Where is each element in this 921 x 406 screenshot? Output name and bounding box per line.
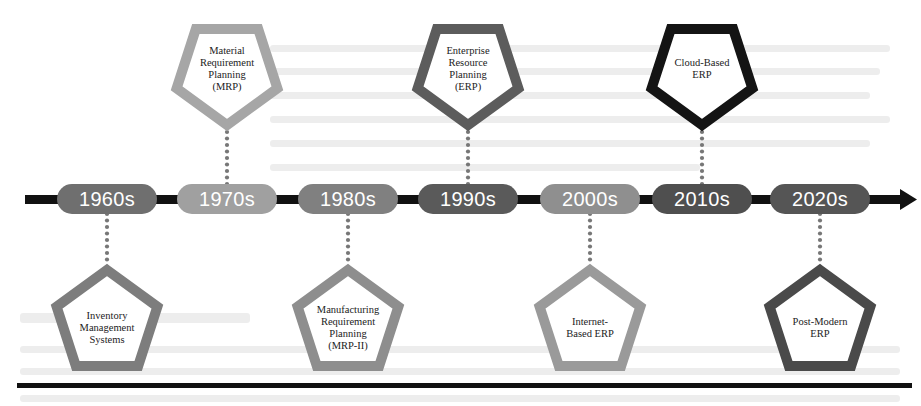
- connector-dot: [588, 231, 592, 235]
- connector-dot: [818, 218, 822, 222]
- connector-dot: [700, 143, 704, 147]
- connector-dot: [588, 251, 592, 255]
- connector-dot: [105, 257, 109, 261]
- milestone-text: Internet- Based ERP: [566, 316, 614, 340]
- connector-dot: [346, 257, 350, 261]
- connector-dot: [346, 218, 350, 222]
- milestone-label-1980s: Manufacturing Requirement Planning (MRP-…: [300, 301, 396, 355]
- connector-dot: [588, 244, 592, 248]
- connector-dot: [225, 136, 229, 140]
- connector-dot: [105, 218, 109, 222]
- connector-dot: [818, 244, 822, 248]
- connector-dot: [700, 149, 704, 153]
- connector-dot: [466, 149, 470, 153]
- milestone-label-2010s: Cloud-Based ERP: [654, 42, 750, 96]
- connector-dot: [225, 169, 229, 173]
- milestone-text: Manufacturing Requirement Planning (MRP-…: [317, 304, 379, 352]
- connector-dot: [105, 231, 109, 235]
- decade-pill-1970s: 1970s: [177, 184, 277, 214]
- connector-dot: [346, 251, 350, 255]
- connector-dot: [818, 251, 822, 255]
- milestone-text: Material Requirement Planning (MRP): [200, 45, 254, 93]
- decade-pill-2010s: 2010s: [652, 184, 752, 214]
- section-divider-rule: [17, 383, 912, 388]
- connector-dot: [346, 231, 350, 235]
- connector-dot: [105, 251, 109, 255]
- arrow-head-icon: [900, 189, 917, 210]
- connector-dot: [105, 244, 109, 248]
- milestone-text: Post-Modern ERP: [793, 316, 848, 340]
- milestone-text: Inventory Management Systems: [80, 310, 135, 346]
- connector-dot: [700, 169, 704, 173]
- decade-pill-2000s: 2000s: [540, 184, 640, 214]
- connector-dot: [700, 175, 704, 179]
- connector-dot: [225, 175, 229, 179]
- connector-dot: [466, 136, 470, 140]
- decade-pill-2020s: 2020s: [770, 184, 870, 214]
- connector-dot: [588, 238, 592, 242]
- connector-dot: [700, 162, 704, 166]
- milestone-label-1970s: Material Requirement Planning (MRP): [179, 42, 275, 96]
- connector-dot: [105, 225, 109, 229]
- milestone-text: Cloud-Based ERP: [675, 57, 730, 81]
- milestone-label-2020s: Post-Modern ERP: [772, 301, 868, 355]
- connector-dot: [466, 143, 470, 147]
- milestone-label-2000s: Internet- Based ERP: [542, 301, 638, 355]
- connector-dot: [346, 238, 350, 242]
- connector-dot: [818, 225, 822, 229]
- connector-dot: [466, 169, 470, 173]
- milestone-label-1990s: Enterprise Resource Planning (ERP): [420, 42, 516, 96]
- connector-dot: [225, 162, 229, 166]
- connector-dot: [346, 244, 350, 248]
- connector-dot: [700, 136, 704, 140]
- connector-dot: [225, 149, 229, 153]
- connector-dot: [818, 231, 822, 235]
- connector-dot: [588, 225, 592, 229]
- connector-dot: [225, 156, 229, 160]
- decade-pill-1990s: 1990s: [418, 184, 518, 214]
- connector-dot: [818, 238, 822, 242]
- decade-pill-1980s: 1980s: [298, 184, 398, 214]
- connector-dot: [700, 156, 704, 160]
- connector-dot: [818, 257, 822, 261]
- connector-dot: [466, 162, 470, 166]
- connector-dot: [105, 238, 109, 242]
- decade-pill-1960s: 1960s: [57, 184, 157, 214]
- connector-dot: [588, 257, 592, 261]
- milestone-label-1960s: Inventory Management Systems: [59, 301, 155, 355]
- connector-dot: [588, 218, 592, 222]
- connector-dot: [346, 225, 350, 229]
- connector-dot: [225, 143, 229, 147]
- connector-dot: [466, 156, 470, 160]
- connector-dot: [466, 175, 470, 179]
- milestone-text: Enterprise Resource Planning (ERP): [446, 45, 489, 93]
